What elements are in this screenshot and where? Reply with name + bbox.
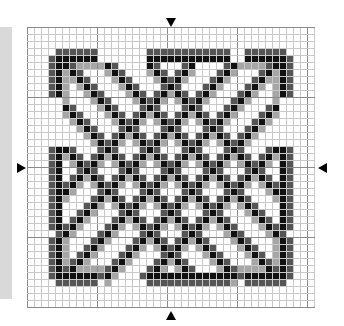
center-marker-top-icon xyxy=(166,18,176,27)
pattern-grid xyxy=(27,27,315,308)
center-marker-bottom-icon xyxy=(166,311,176,320)
side-strip xyxy=(0,27,12,299)
center-marker-right-icon xyxy=(318,163,327,173)
center-marker-left-icon xyxy=(17,163,26,173)
stitch-chart xyxy=(27,27,315,308)
